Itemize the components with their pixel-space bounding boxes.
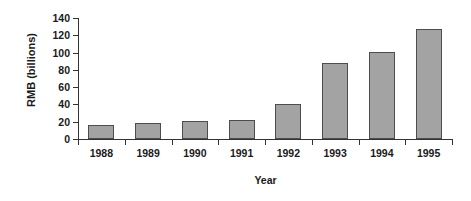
y-axis-tick-label: 140: [30, 13, 70, 23]
bar: [135, 123, 161, 139]
y-axis-tick-label-wrap: 20: [28, 117, 70, 127]
y-axis-tick-label-wrap: 140: [28, 13, 70, 23]
bar: [369, 52, 395, 139]
x-axis-tick-label: 1994: [358, 147, 406, 159]
y-axis-tick-label: 80: [30, 65, 70, 75]
x-axis-tick-label: 1992: [264, 147, 312, 159]
y-axis-tick-label: 100: [30, 48, 70, 58]
x-axis-tick-label: 1995: [405, 147, 453, 159]
y-axis-tick-label: 20: [30, 117, 70, 127]
x-axis-tick: [78, 140, 79, 145]
x-axis-tick: [125, 140, 126, 145]
bar: [88, 125, 114, 139]
y-axis-tick-label: 0: [30, 134, 70, 144]
x-axis-title: Year: [78, 174, 453, 186]
bar: [416, 29, 442, 139]
x-axis-tick-label: 1988: [77, 147, 125, 159]
x-axis-tick: [452, 140, 453, 145]
bar: [229, 120, 255, 139]
x-axis-tick: [172, 140, 173, 145]
x-axis-tick-label: 1990: [171, 147, 219, 159]
bar: [322, 63, 348, 139]
bar-chart: RMB (billions) 020406080100120140 198819…: [0, 0, 471, 201]
y-axis-tick-label: 120: [30, 30, 70, 40]
y-axis-tick-label-wrap: 120: [28, 30, 70, 40]
x-axis-tick-label: 1991: [218, 147, 266, 159]
x-axis-tick-label: 1993: [311, 147, 359, 159]
bar: [275, 104, 301, 139]
y-axis-tick-label: 40: [30, 99, 70, 109]
x-axis-tick-label: 1989: [124, 147, 172, 159]
bar: [182, 121, 208, 139]
x-axis-tick: [405, 140, 406, 145]
y-axis-tick-label-wrap: 0: [28, 134, 70, 144]
x-axis-tick: [265, 140, 266, 145]
y-axis-tick-label: 60: [30, 82, 70, 92]
y-axis-tick-label-wrap: 40: [28, 99, 70, 109]
plot-area: [78, 18, 452, 139]
y-axis-tick-label-wrap: 100: [28, 48, 70, 58]
y-axis-tick-label-wrap: 60: [28, 82, 70, 92]
x-axis-tick: [218, 140, 219, 145]
x-axis-tick: [312, 140, 313, 145]
y-axis-tick-label-wrap: 80: [28, 65, 70, 75]
x-axis-tick: [359, 140, 360, 145]
